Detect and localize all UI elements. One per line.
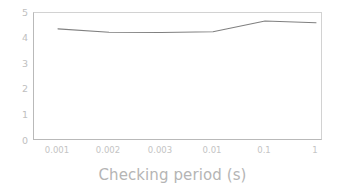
- line-chart: 5 4 3 2 1 0 0.001 0.002 0.003 0.01 0.1 1…: [0, 0, 345, 195]
- x-tick-label-5: 1: [312, 145, 317, 155]
- x-tick-label-2: 0.003: [148, 145, 172, 155]
- x-tick-label-4: 0.1: [257, 145, 271, 155]
- y-tick-label-0: 0: [6, 136, 28, 146]
- x-axis-title: Checking period (s): [0, 166, 345, 184]
- x-tick-label-3: 0.01: [203, 145, 222, 155]
- y-tick-label-2: 2: [6, 84, 28, 94]
- y-tick-label-1: 1: [6, 110, 28, 120]
- series-polyline: [58, 21, 316, 33]
- x-tick-label-0: 0.001: [45, 145, 69, 155]
- y-tick-label-4: 4: [6, 33, 28, 43]
- y-tick-label-3: 3: [6, 59, 28, 69]
- plot-area: [33, 12, 322, 140]
- data-line-svg: [34, 13, 323, 141]
- x-tick-label-1: 0.002: [96, 145, 120, 155]
- y-tick-label-5: 5: [6, 8, 28, 18]
